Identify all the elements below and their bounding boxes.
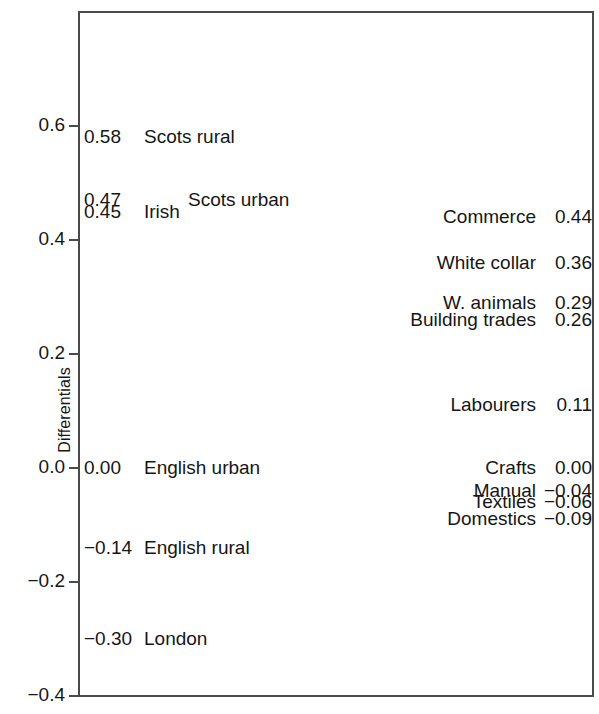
y-axis-tick-label: 0.4 [39,228,65,250]
data-value: 0.36 [555,250,592,276]
data-category-label: Commerce [443,204,536,230]
occupational-label-column: 0.44Commerce0.36White collar0.29W. anima… [294,0,594,714]
y-axis-tick-label: −0.2 [27,570,65,592]
data-value: −0.09 [544,506,592,532]
data-category-label: Domestics [447,506,536,532]
data-value: 0.45 [84,199,121,225]
data-category-label: Labourers [450,392,536,418]
y-axis-tick-mark [69,353,78,355]
data-category-label: Irish [144,199,180,225]
data-value: 0.11 [556,392,592,418]
data-category-label: Building trades [410,307,536,333]
data-value: 0.26 [555,307,592,333]
data-value: −0.30 [84,626,132,652]
y-axis-tick-mark [69,695,78,697]
y-axis-tick-label: −0.4 [27,684,65,706]
y-axis-tick-label: 0.2 [39,342,65,364]
data-category-label: Scots urban [188,187,289,213]
y-axis-tick-mark [69,125,78,127]
data-category-label: Scots rural [144,124,235,150]
data-value: 0.44 [555,204,592,230]
data-value: −0.14 [84,535,132,561]
data-value: 0.00 [84,455,121,481]
data-category-label: White collar [437,250,536,276]
y-axis-tick-mark [69,467,78,469]
y-axis-tick-mark [69,239,78,241]
data-category-label: London [144,626,207,652]
data-category-label: English rural [144,535,250,561]
y-axis-tick-label: 0.6 [39,114,65,136]
data-category-label: English urban [144,455,260,481]
y-axis-tick-label: 0.0 [39,456,65,478]
y-axis-tick-mark [69,581,78,583]
data-value: 0.58 [84,124,121,150]
